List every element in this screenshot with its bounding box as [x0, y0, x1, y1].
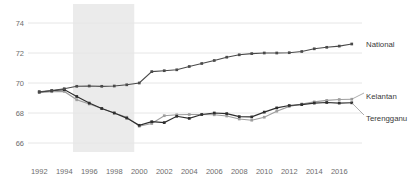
x-axis-tick-label: 2014 [306, 167, 323, 176]
y-axis-tick-label: 74 [16, 19, 24, 28]
x-axis-tick-label: 1994 [56, 167, 73, 176]
y-axis-tick-label: 66 [16, 139, 24, 148]
leader-line [352, 93, 364, 99]
y-axis-tick-label: 70 [16, 79, 24, 88]
line-chart: 6668707274199219941996199820002002200420… [0, 0, 418, 182]
x-axis-tick-label: 2006 [206, 167, 223, 176]
highlight-band [73, 4, 134, 152]
series-label-kelantan: Kelantan [366, 92, 397, 101]
x-axis-tick-label: 2012 [281, 167, 298, 176]
x-axis-tick-label: 1992 [31, 167, 48, 176]
x-axis-tick-label: 2016 [331, 167, 348, 176]
y-axis-tick-label: 72 [16, 49, 24, 58]
series-label-terengganu: Terengganu [366, 114, 407, 123]
x-axis-tick-label: 1996 [81, 167, 98, 176]
chart-canvas: 6668707274199219941996199820002002200420… [0, 0, 418, 182]
x-axis-tick-label: 2000 [131, 167, 148, 176]
x-axis-tick-label: 1998 [106, 167, 123, 176]
x-axis-tick-label: 2002 [156, 167, 173, 176]
x-axis-tick-label: 2010 [256, 167, 273, 176]
x-axis-tick-label: 2004 [181, 167, 198, 176]
series-label-national: National [366, 40, 395, 49]
y-axis-tick-label: 68 [16, 109, 24, 118]
x-axis-tick-label: 2008 [231, 167, 248, 176]
